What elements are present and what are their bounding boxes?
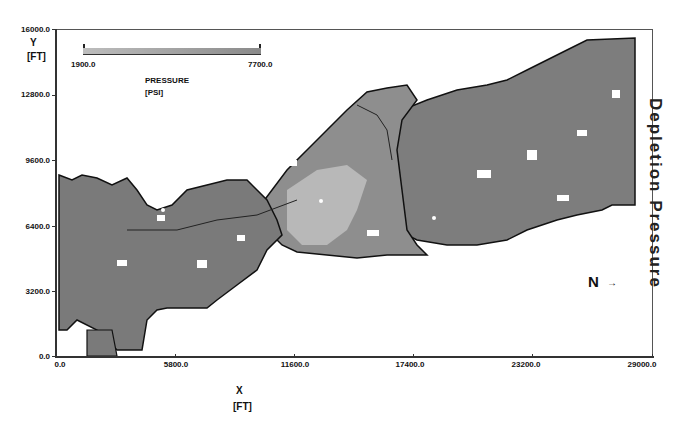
y-tick-label: 3200.0 xyxy=(0,287,50,296)
north-label: N xyxy=(588,273,599,290)
well-marker xyxy=(161,208,165,212)
well-marker xyxy=(319,199,323,203)
x-tick-mark xyxy=(652,354,653,358)
legend-unit-text: [PSI] xyxy=(145,87,189,99)
x-axis-title: X xyxy=(236,385,243,396)
pressure-colorbar xyxy=(83,48,261,55)
chart-title: Depletion Pressure xyxy=(645,98,665,289)
legend-title-text: PRESSURE xyxy=(145,75,189,87)
y-tick-label: 16000.0 xyxy=(0,25,50,34)
y-axis-title: Y xyxy=(30,37,37,48)
y-axis-unit: [FT] xyxy=(27,51,46,62)
x-tick-label: 5800.0 xyxy=(146,360,206,369)
x-tick-mark xyxy=(294,354,295,358)
y-tick-label: 9600.0 xyxy=(0,156,50,165)
x-tick-label: 23200.0 xyxy=(496,360,556,369)
x-tick-mark xyxy=(56,354,57,358)
north-arrow-icon: → xyxy=(607,277,617,288)
well-marker xyxy=(432,216,436,220)
x-tick-mark xyxy=(175,354,176,358)
x-tick-mark xyxy=(532,354,533,358)
x-tick-label: 29000.0 xyxy=(612,360,672,369)
y-tick-mark xyxy=(52,95,56,96)
x-axis xyxy=(55,356,654,358)
y-tick-mark xyxy=(52,29,56,30)
legend-max-label: 7700.0 xyxy=(248,60,272,69)
y-axis xyxy=(55,29,57,358)
y-tick-mark xyxy=(52,291,56,292)
x-tick-label: 17400.0 xyxy=(380,360,440,369)
y-tick-label: 12800.0 xyxy=(0,90,50,99)
legend-min-label: 1900.0 xyxy=(71,60,95,69)
y-tick-mark xyxy=(52,226,56,227)
legend-title: PRESSURE [PSI] xyxy=(145,75,189,99)
x-tick-mark xyxy=(413,354,414,358)
y-tick-mark xyxy=(52,160,56,161)
x-axis-unit: [FT] xyxy=(233,401,252,412)
x-tick-label: 0.0 xyxy=(30,360,90,369)
y-tick-label: 6400.0 xyxy=(0,222,50,231)
x-tick-label: 11600.0 xyxy=(265,360,325,369)
